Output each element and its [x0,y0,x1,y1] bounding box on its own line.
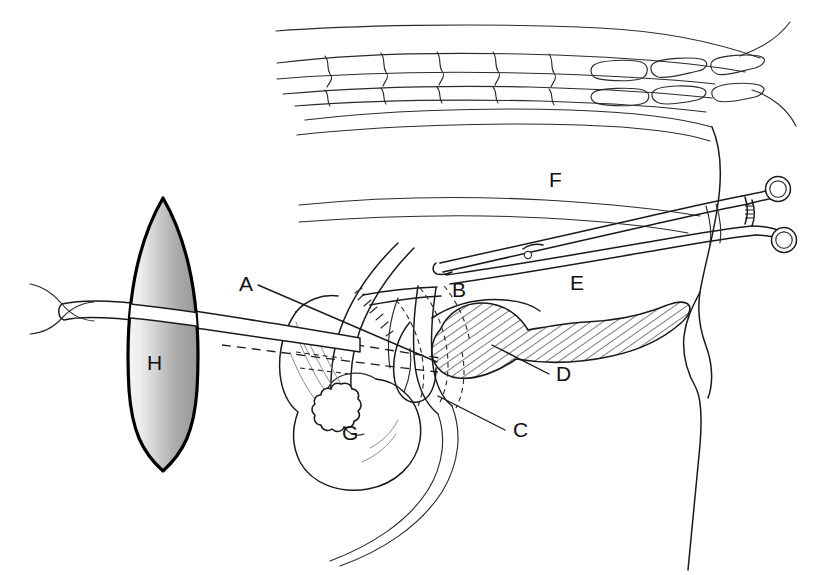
label-c: C [513,418,529,441]
label-h: H [147,351,163,374]
figure-labels: A B C D E F G H [147,168,585,444]
label-f: F [549,168,562,191]
label-g: G [342,421,359,444]
surgical-forceps [433,177,796,285]
label-e: E [570,271,585,294]
label-d: D [556,362,572,385]
anatomical-line-drawing: A B C D E F G H [0,0,821,575]
leader-line-c [438,396,505,430]
vertebral-column [276,22,796,126]
figure-canvas: A B C D E F G H [0,0,821,575]
label-b: B [452,278,467,301]
label-a: A [239,272,254,295]
